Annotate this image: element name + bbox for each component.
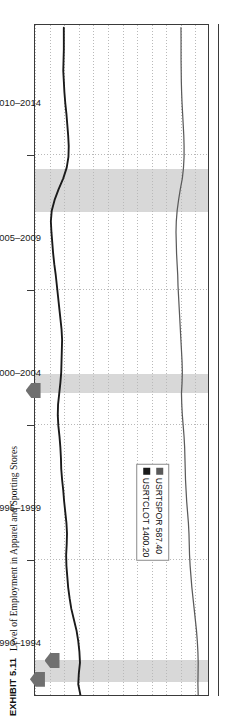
time-axis-tick-label: 1995–1999	[0, 502, 48, 513]
exhibit-caption-area: EXHIBIT 5.11 Level of Employment in Appa…	[0, 0, 26, 718]
exhibit-caption: EXHIBIT 5.11 Level of Employment in Appa…	[0, 0, 26, 718]
series-line-usrtclot	[51, 28, 81, 695]
exhibit-title: Level of Employment in Apparel and Sport…	[8, 446, 19, 651]
time-axis-tick-label: 2000–2004	[0, 367, 48, 378]
value-axis-line	[218, 24, 219, 696]
time-axis-tick-label: 1990–1994	[0, 637, 48, 648]
legend-label: USRTCLOT 1400.20	[141, 477, 151, 556]
callout-marker-c-icon[interactable]	[26, 383, 41, 398]
time-axis-tick-major	[27, 155, 34, 156]
legend-swatch	[143, 467, 150, 474]
plot-area	[34, 24, 209, 696]
chart-legend: USRTCLOT 1400.20USRTSPOR 587.40	[136, 463, 169, 560]
callout-marker-a-icon[interactable]	[30, 672, 45, 687]
time-axis-tick-major	[27, 290, 34, 291]
chart-area: 16001400120010008006004001990–19941995–1…	[26, 0, 244, 718]
time-axis-tick-label: 2005–2009	[0, 232, 48, 243]
legend-label: USRTSPOR 587.40	[154, 477, 164, 553]
series-lines	[35, 25, 208, 695]
legend-item: USRTCLOT 1400.20	[141, 467, 151, 556]
legend-swatch	[156, 467, 163, 474]
time-axis-tick-major	[27, 560, 34, 561]
exhibit-number: EXHIBIT 5.11	[8, 658, 18, 716]
legend-item: USRTSPOR 587.40	[154, 467, 164, 556]
chart-canvas: 16001400120010008006004001990–19941995–1…	[26, 0, 244, 718]
series-line-usrtspor	[176, 28, 198, 695]
time-axis-tick-label: 2010–2014	[0, 97, 48, 108]
time-axis-tick-major	[27, 425, 34, 426]
